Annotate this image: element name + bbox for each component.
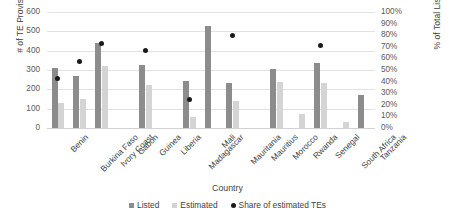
gridline [47, 128, 375, 129]
y-tick-label-primary: 300 [0, 66, 40, 74]
y-tick-label-secondary: 70% [381, 43, 415, 51]
x-tick-label: Liberia [179, 132, 204, 157]
y-tick-label-primary: 600 [0, 8, 40, 16]
y-tick-label-secondary: 30% [381, 89, 415, 97]
y-tick-label-secondary: 20% [381, 101, 415, 109]
y-tick-label-secondary: 0% [381, 124, 415, 132]
x-tick-label: Benin [68, 132, 90, 154]
circle-icon [231, 203, 236, 208]
scatter-point-share [77, 59, 82, 64]
bar-estimated [277, 82, 283, 128]
bar-estimated [343, 122, 349, 128]
gridline [47, 31, 375, 32]
y-axis-title-secondary: % of Total Listed [432, 0, 442, 88]
bar-listed [314, 63, 320, 128]
y-tick-label-primary: 400 [0, 47, 40, 55]
plot-area [47, 12, 375, 128]
y-tick-label-secondary: 100% [381, 8, 415, 16]
x-axis-title: Country [0, 183, 455, 193]
bar-estimated [80, 99, 86, 128]
bar-estimated [102, 66, 108, 128]
x-tick-label: Guinea [157, 132, 183, 158]
bar-listed [358, 95, 364, 128]
legend-item[interactable]: Share of estimated TEs [231, 200, 326, 210]
bar-estimated [233, 101, 239, 128]
legend-item-label: Listed [137, 200, 159, 210]
y-tick-label-secondary: 90% [381, 20, 415, 28]
gridline [47, 12, 375, 13]
scatter-point-share [230, 33, 235, 38]
legend-item-label: Share of estimated TEs [239, 200, 326, 210]
bar-listed [270, 69, 276, 128]
scatter-point-share [99, 41, 104, 46]
legend-item-label: Estimated [180, 200, 217, 210]
bar-estimated [321, 83, 327, 128]
y-tick-label-secondary: 10% [381, 112, 415, 120]
y-tick-label-secondary: 60% [381, 54, 415, 62]
square-icon [172, 203, 177, 208]
scatter-point-share [143, 48, 148, 53]
bar-listed [205, 26, 211, 128]
bar-estimated [190, 117, 196, 128]
square-icon [129, 203, 134, 208]
chart-container: # of TE Provisions % of Total Listed Cou… [0, 0, 455, 223]
scatter-point-share [187, 97, 192, 102]
bar-listed [95, 43, 101, 128]
y-tick-label-secondary: 80% [381, 31, 415, 39]
scatter-point-share [55, 76, 60, 81]
bar-estimated [58, 103, 64, 128]
legend-item[interactable]: Listed [129, 200, 159, 210]
bar-listed [139, 65, 145, 128]
y-tick-label-primary: 500 [0, 27, 40, 35]
scatter-point-share [318, 43, 323, 48]
bar-listed [73, 76, 79, 128]
chart-legend: ListedEstimatedShare of estimated TEs [0, 200, 455, 210]
bar-estimated [299, 114, 305, 128]
bar-listed [183, 81, 189, 128]
bar-listed [226, 83, 232, 128]
legend-item[interactable]: Estimated [172, 200, 217, 210]
y-tick-label-secondary: 40% [381, 78, 415, 86]
y-tick-label-secondary: 50% [381, 66, 415, 74]
y-tick-label-primary: 0 [0, 124, 40, 132]
bar-estimated [146, 85, 152, 128]
y-tick-label-primary: 200 [0, 85, 40, 93]
y-tick-label-primary: 100 [0, 105, 40, 113]
